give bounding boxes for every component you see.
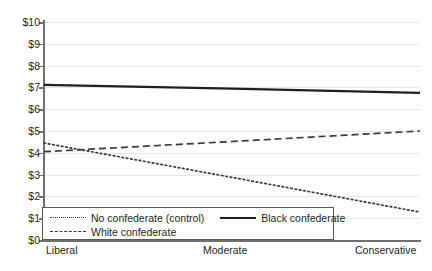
legend-label-no-confederate: No confederate (control) (91, 213, 204, 224)
line-chart: $10 $9 $8 $7 $6 $5 $4 $3 $2 $1 $0 No con… (0, 0, 432, 271)
legend-item-white-confederate: White confederate (50, 227, 176, 238)
legend-swatch-solid-icon (220, 214, 256, 222)
legend-swatch-dotted-icon (50, 214, 86, 222)
x-label-liberal: Liberal (46, 244, 78, 256)
legend-item-black-confederate: Black confederate (220, 213, 345, 224)
legend-row-1: No confederate (control) Black confedera… (50, 211, 345, 225)
x-label-moderate: Moderate (203, 244, 247, 256)
chart-legend: No confederate (control) Black confedera… (42, 207, 334, 240)
x-label-conservative: Conservative (355, 244, 416, 256)
series-white-confederate (44, 131, 420, 152)
legend-label-white-confederate: White confederate (91, 227, 176, 238)
series-black-confederate (44, 85, 420, 93)
legend-row-2: White confederate (50, 225, 176, 239)
x-axis-labels: Liberal Moderate Conservative (0, 244, 432, 262)
legend-item-no-confederate: No confederate (control) (50, 213, 204, 224)
legend-label-black-confederate: Black confederate (261, 213, 345, 224)
series-no-confederate (44, 143, 420, 212)
legend-swatch-dashed-icon (50, 228, 86, 236)
